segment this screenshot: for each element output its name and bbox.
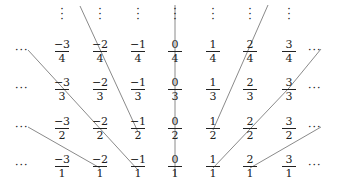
fraction: 23	[238, 77, 262, 102]
denominator: 2	[277, 130, 301, 141]
denominator: 3	[238, 91, 262, 102]
numerator: 0	[163, 154, 187, 165]
fraction: 12	[201, 116, 225, 141]
row-ellipsis-right: ···	[308, 44, 322, 57]
denominator: 4	[50, 53, 74, 64]
denominator: 3	[88, 91, 112, 102]
numerator: −3	[50, 39, 74, 50]
vertical-ellipsis: ···	[172, 7, 178, 22]
numerator: −1	[126, 154, 150, 165]
denominator: 1	[201, 168, 225, 179]
denominator: 4	[238, 53, 262, 64]
numerator: −1	[126, 77, 150, 88]
fraction: −12	[126, 116, 150, 141]
fraction: −13	[126, 77, 150, 102]
denominator: 2	[201, 130, 225, 141]
vertical-ellipsis: ···	[286, 7, 292, 22]
fraction: −24	[88, 39, 112, 64]
numerator: −3	[50, 116, 74, 127]
vertical-ellipsis: ···	[97, 7, 103, 22]
path-segment	[28, 50, 138, 170]
vertical-ellipsis: ···	[135, 7, 141, 22]
numerator: 1	[201, 116, 225, 127]
numerator: −2	[88, 39, 112, 50]
vertical-ellipsis: ···	[59, 7, 65, 22]
fraction: 34	[277, 39, 301, 64]
denominator: 4	[277, 53, 301, 64]
fraction: 21	[238, 154, 262, 179]
fraction: 01	[163, 154, 187, 179]
fraction: 31	[277, 154, 301, 179]
denominator: 3	[163, 91, 187, 102]
denominator: 4	[126, 53, 150, 64]
denominator: 1	[238, 168, 262, 179]
denominator: 4	[163, 53, 187, 64]
fraction: −32	[50, 116, 74, 141]
path-segment	[80, 6, 138, 132]
row-ellipsis-left: ···	[15, 159, 29, 172]
numerator: −2	[88, 154, 112, 165]
row-ellipsis-left: ···	[15, 121, 29, 134]
vertical-ellipsis: ···	[210, 7, 216, 22]
denominator: 1	[50, 168, 74, 179]
numerator: 3	[277, 116, 301, 127]
numerator: 2	[238, 77, 262, 88]
denominator: 1	[88, 168, 112, 179]
numerator: 1	[201, 154, 225, 165]
numerator: 0	[163, 39, 187, 50]
fraction: −22	[88, 116, 112, 141]
denominator: 2	[238, 130, 262, 141]
fraction: −23	[88, 77, 112, 102]
fraction: 04	[163, 39, 187, 64]
denominator: 2	[50, 130, 74, 141]
fraction: −14	[126, 39, 150, 64]
row-ellipsis-right: ···	[308, 121, 322, 134]
denominator: 3	[50, 91, 74, 102]
denominator: 1	[163, 168, 187, 179]
fraction: −33	[50, 77, 74, 102]
path-segment	[213, 5, 268, 130]
row-ellipsis-right: ···	[308, 159, 322, 172]
fraction: 13	[201, 77, 225, 102]
fraction: 03	[163, 77, 187, 102]
fraction: 33	[277, 77, 301, 102]
vertical-ellipsis: ···	[247, 7, 253, 22]
denominator: 2	[88, 130, 112, 141]
denominator: 1	[126, 168, 150, 179]
numerator: 2	[238, 116, 262, 127]
fraction: −34	[50, 39, 74, 64]
fraction: 02	[163, 116, 187, 141]
fraction: −31	[50, 154, 74, 179]
numerator: 3	[277, 77, 301, 88]
numerator: −1	[126, 116, 150, 127]
row-ellipsis-left: ···	[15, 82, 29, 95]
numerator: −1	[126, 39, 150, 50]
fraction: 24	[238, 39, 262, 64]
numerator: −3	[50, 154, 74, 165]
fraction: 22	[238, 116, 262, 141]
denominator: 1	[277, 168, 301, 179]
numerator: −2	[88, 116, 112, 127]
denominator: 3	[277, 91, 301, 102]
fraction: 11	[201, 154, 225, 179]
fraction: −21	[88, 154, 112, 179]
numerator: 2	[238, 39, 262, 50]
numerator: 2	[238, 154, 262, 165]
numerator: 3	[277, 154, 301, 165]
numerator: −3	[50, 77, 74, 88]
denominator: 4	[88, 53, 112, 64]
fraction: −11	[126, 154, 150, 179]
numerator: 1	[201, 39, 225, 50]
numerator: 0	[163, 116, 187, 127]
denominator: 2	[126, 130, 150, 141]
denominator: 3	[126, 91, 150, 102]
numerator: 3	[277, 39, 301, 50]
fraction: 32	[277, 116, 301, 141]
fraction: 14	[201, 39, 225, 64]
denominator: 2	[163, 130, 187, 141]
numerator: 0	[163, 77, 187, 88]
denominator: 3	[201, 91, 225, 102]
row-ellipsis-left: ···	[15, 44, 29, 57]
row-ellipsis-right: ···	[308, 82, 322, 95]
denominator: 4	[201, 53, 225, 64]
